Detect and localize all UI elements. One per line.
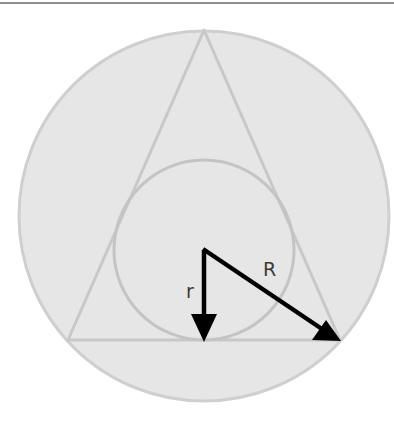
geometry-diagram: r R <box>0 0 394 430</box>
inradius-label: r <box>186 280 194 302</box>
circumscribed-circle <box>19 31 389 401</box>
circumradius-label: R <box>263 258 276 280</box>
